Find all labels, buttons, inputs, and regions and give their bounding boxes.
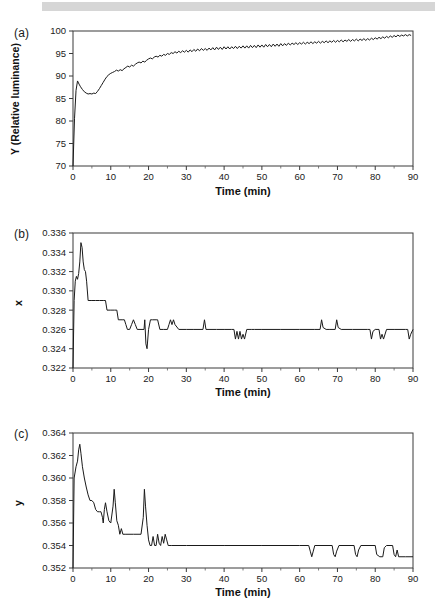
y-tick-label: 0.332	[42, 266, 66, 277]
x-tick-label: 60	[294, 171, 305, 182]
data-series-line	[73, 243, 413, 368]
x-tick-label: 90	[408, 171, 419, 182]
x-tick-label: 0	[70, 171, 75, 182]
x-tick-label: 10	[105, 573, 116, 584]
panel-b: (b) x Time (min) 0.3220.3240.3260.3280.3…	[0, 200, 435, 400]
y-tick-label: 0.330	[42, 285, 66, 296]
x-tick-label: 50	[257, 373, 268, 384]
x-tick-label: 30	[181, 573, 192, 584]
y-tick-label: 75	[55, 138, 66, 149]
x-tick-label: 20	[143, 171, 154, 182]
x-tick-label: 60	[294, 573, 305, 584]
y-tick-label: 0.336	[42, 227, 66, 238]
x-tick-label: 30	[181, 373, 192, 384]
y-tick-label: 0.322	[42, 362, 66, 373]
x-tick-label: 50	[257, 573, 268, 584]
x-tick-label: 10	[105, 171, 116, 182]
x-tick-label: 70	[332, 171, 343, 182]
y-tick-label: 0.326	[42, 324, 66, 335]
panel-b-plot: 0.3220.3240.3260.3280.3300.3320.3340.336…	[0, 200, 435, 400]
data-series-line	[73, 444, 413, 568]
y-tick-label: 0.358	[42, 495, 66, 506]
y-tick-label: 0.354	[42, 540, 66, 551]
y-tick-label: 0.364	[42, 427, 66, 438]
y-tick-label: 0.360	[42, 472, 66, 483]
data-series-line	[73, 35, 411, 166]
y-tick-label: 70	[55, 160, 66, 171]
plot-frame	[73, 233, 413, 368]
y-tick-label: 0.352	[42, 562, 66, 573]
y-tick-label: 0.334	[42, 247, 66, 258]
x-tick-label: 20	[143, 373, 154, 384]
x-tick-label: 0	[70, 373, 75, 384]
y-tick-label: 95	[55, 48, 66, 59]
x-tick-label: 0	[70, 573, 75, 584]
y-tick-label: 0.324	[42, 343, 66, 354]
x-tick-label: 80	[370, 573, 381, 584]
y-tick-label: 80	[55, 115, 66, 126]
plot-frame	[73, 433, 413, 568]
y-tick-label: 90	[55, 70, 66, 81]
y-tick-label: 0.328	[42, 305, 66, 316]
y-tick-label: 100	[50, 25, 66, 36]
plot-frame	[73, 31, 413, 166]
x-tick-label: 80	[370, 171, 381, 182]
x-tick-label: 60	[294, 373, 305, 384]
panel-c: (c) y Time (min) 0.3520.3540.3560.3580.3…	[0, 400, 435, 605]
panel-a: (a) Y (Relative luminance) Time (min) 70…	[0, 0, 435, 200]
x-tick-label: 90	[408, 373, 419, 384]
panel-a-plot: 7075808590951000102030405060708090	[0, 0, 435, 200]
x-tick-label: 40	[219, 573, 230, 584]
x-tick-label: 50	[257, 171, 268, 182]
x-tick-label: 80	[370, 373, 381, 384]
y-tick-label: 85	[55, 93, 66, 104]
x-tick-label: 90	[408, 573, 419, 584]
x-tick-label: 20	[143, 573, 154, 584]
panel-c-plot: 0.3520.3540.3560.3580.3600.3620.36401020…	[0, 400, 435, 605]
x-tick-label: 10	[105, 373, 116, 384]
x-tick-label: 70	[332, 573, 343, 584]
y-tick-label: 0.362	[42, 450, 66, 461]
x-tick-label: 30	[181, 171, 192, 182]
y-tick-label: 0.356	[42, 517, 66, 528]
x-tick-label: 40	[219, 171, 230, 182]
figure-container: (a) Y (Relative luminance) Time (min) 70…	[0, 0, 435, 605]
x-tick-label: 40	[219, 373, 230, 384]
x-tick-label: 70	[332, 373, 343, 384]
